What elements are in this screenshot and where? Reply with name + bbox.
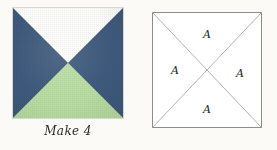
quilt-block-photo xyxy=(13,8,123,118)
unit-label-left: A xyxy=(170,64,179,77)
quilt-instruction-figure: Make 4 A A A A xyxy=(0,0,277,150)
unit-label-right: A xyxy=(235,67,244,80)
unit-label-top: A xyxy=(202,28,211,41)
unit-label-bottom: A xyxy=(202,103,211,116)
make-quantity-caption: Make 4 xyxy=(13,124,123,138)
quilt-block-line-diagram: A A A A xyxy=(152,12,262,128)
